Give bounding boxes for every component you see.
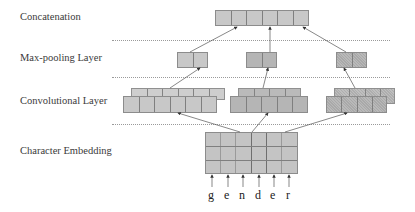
input-char-g: g — [208, 188, 214, 203]
input-char-e: e — [224, 188, 229, 203]
input-char-d: d — [255, 188, 261, 203]
input-char-r: r — [286, 188, 290, 203]
connection-arrows — [0, 0, 415, 212]
input-char-e: e — [270, 188, 275, 203]
input-char-n: n — [239, 188, 245, 203]
